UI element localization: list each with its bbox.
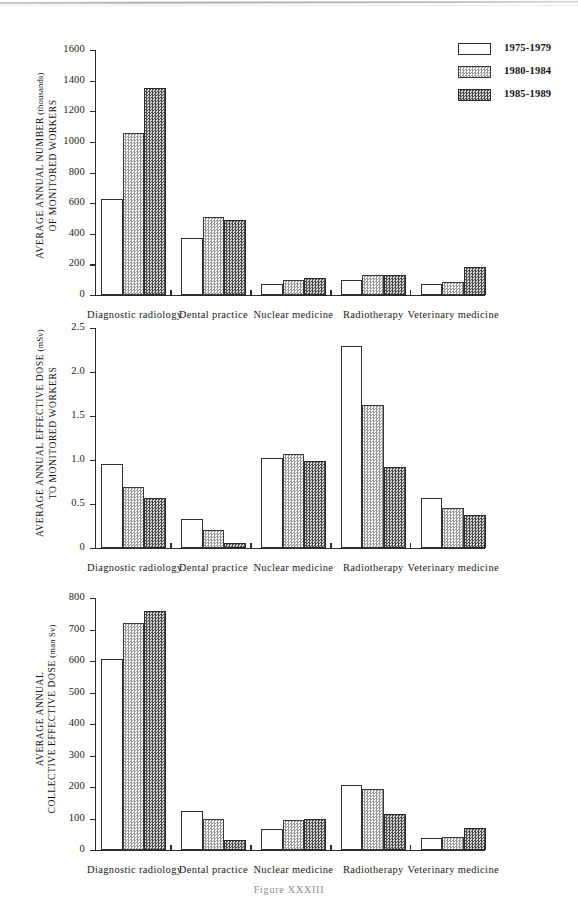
bar [144, 498, 166, 548]
y-axis-tick [90, 111, 95, 112]
bar [421, 498, 443, 548]
y-axis-tick [90, 142, 95, 143]
y-axis-tick [90, 234, 95, 235]
y-axis-title-line2: TO MONITORED WORKERS [47, 322, 59, 544]
y-axis-tick [90, 264, 95, 265]
figure-page: 1975-19791980-19841985-1989 020040060080… [0, 0, 578, 900]
y-axis-tick [90, 81, 95, 82]
y-axis-tick-label: 0 [80, 288, 85, 299]
y-axis-tick [90, 693, 95, 694]
bar [442, 282, 464, 295]
bar [101, 464, 123, 548]
bar [341, 346, 363, 548]
y-axis-tick-label: 400 [69, 227, 85, 238]
y-axis-tick [90, 50, 95, 51]
x-axis-tick [250, 290, 251, 296]
bar [261, 829, 283, 850]
x-axis-tick [330, 290, 331, 296]
y-axis-tick-label: 400 [69, 717, 85, 728]
y-axis-title-line2: OF MONITORED WORKERS [47, 43, 59, 288]
bar [144, 88, 166, 295]
scan-edge-line-secondary [0, 5, 578, 6]
x-axis-tick [410, 845, 411, 851]
x-axis-tick [170, 845, 171, 851]
y-axis-tick [90, 661, 95, 662]
y-axis-tick-label: 0 [80, 843, 85, 854]
y-axis-tick [90, 372, 95, 373]
bar [421, 284, 443, 295]
bar [304, 819, 326, 850]
y-axis-tick-label: 700 [69, 623, 85, 634]
bar [362, 405, 384, 548]
y-axis-tick-label: 0.5 [71, 497, 85, 508]
y-axis-tick [90, 203, 95, 204]
bar [362, 789, 384, 850]
y-axis-tick-label: 100 [69, 812, 85, 823]
figure-caption: Figure XXXIII [0, 884, 578, 895]
y-axis-tick [90, 173, 95, 174]
bar [341, 785, 363, 850]
chart-panel-collective-dose: 0100200300400500600700800Diagnostic radi… [0, 588, 578, 868]
y-axis-title: AVERAGE ANNUAL EFFECTIVE DOSE (mSv)TO MO… [34, 322, 58, 544]
x-axis-line [95, 548, 485, 549]
y-axis-tick-label: 200 [69, 780, 85, 791]
y-axis-tick-label: 1600 [63, 43, 85, 54]
y-axis-tick-label: 200 [69, 257, 85, 268]
y-axis-tick-label: 1200 [63, 104, 85, 115]
x-axis-line [95, 295, 485, 296]
y-axis-tick [90, 756, 95, 757]
y-axis-line [95, 50, 96, 295]
y-axis-title-line1: AVERAGE ANNUAL EFFECTIVE DOSE (mSv) [34, 322, 47, 544]
y-axis-tick [90, 630, 95, 631]
y-axis-tick-label: 1.0 [71, 453, 85, 464]
y-axis-tick [90, 328, 95, 329]
x-axis-category-label: Veterinary medicine [407, 864, 500, 875]
bar [283, 454, 305, 548]
bar [101, 659, 123, 850]
bar [304, 278, 326, 295]
bar [224, 543, 246, 548]
bar [464, 267, 486, 295]
bar [464, 828, 486, 850]
x-axis-category-label: Veterinary medicine [407, 562, 500, 573]
x-axis-tick [250, 845, 251, 851]
x-axis-tick-start [95, 845, 96, 851]
y-axis-title: AVERAGE ANNUAL NUMBER (thousands)OF MONI… [34, 43, 58, 288]
y-axis-tick-label: 800 [69, 591, 85, 602]
y-axis-title-line1: AVERAGE ANNUAL NUMBER (thousands) [34, 43, 47, 288]
bar [421, 838, 443, 850]
bar [144, 611, 166, 850]
bar [304, 461, 326, 548]
y-axis-title-line2: COLLECTIVE EFFECTIVE DOSE (man Sv) [46, 594, 59, 844]
bar [181, 811, 203, 850]
bar [464, 515, 486, 548]
y-axis-tick-label: 800 [69, 166, 85, 177]
y-axis-tick-label: 1000 [63, 135, 85, 146]
x-axis-tick [170, 543, 171, 549]
y-axis-tick [90, 460, 95, 461]
y-axis-tick-label: 2.5 [71, 321, 85, 332]
bar [261, 458, 283, 548]
y-axis-tick [90, 598, 95, 599]
bar [362, 275, 384, 295]
y-axis-tick [90, 504, 95, 505]
y-axis-tick-label: 1400 [63, 74, 85, 85]
y-axis-tick-label: 600 [69, 196, 85, 207]
y-axis-tick [90, 787, 95, 788]
bar [181, 238, 203, 295]
y-axis-title-line1: AVERAGE ANNUAL [34, 594, 46, 844]
y-axis-tick-label: 300 [69, 749, 85, 760]
x-axis-tick [410, 290, 411, 296]
x-axis-tick [410, 543, 411, 549]
y-axis-tick-label: 0 [80, 541, 85, 552]
y-axis-tick [90, 416, 95, 417]
x-axis-line [95, 850, 485, 851]
y-axis-tick-label: 2.0 [71, 365, 85, 376]
bar [261, 284, 283, 295]
y-axis-tick [90, 819, 95, 820]
y-axis-tick-label: 600 [69, 654, 85, 665]
x-axis-tick-end [484, 845, 485, 851]
bar [224, 220, 246, 295]
x-axis-tick-start [95, 290, 96, 296]
y-axis-line [95, 328, 96, 548]
